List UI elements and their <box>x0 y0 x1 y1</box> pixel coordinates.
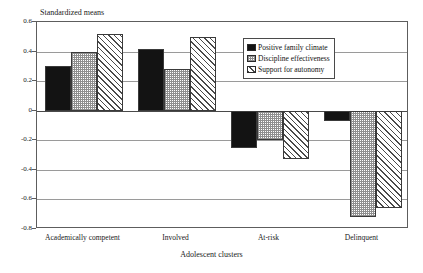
bar <box>283 111 309 160</box>
legend-item: Positive family climate <box>247 42 330 53</box>
y-tick-label: -0.8 <box>21 224 32 232</box>
y-tick-label: -0.2 <box>21 135 32 143</box>
y-tick-mark <box>32 139 36 140</box>
bar <box>350 111 376 217</box>
bar <box>376 111 402 209</box>
x-tick-label: Delinquent <box>345 233 378 242</box>
y-tick-label: 0.6 <box>23 17 32 25</box>
bar-chart-figure: Standardized means 0.60.40.20-0.2-0.4-0.… <box>0 0 423 273</box>
y-tick-mark <box>32 110 36 111</box>
bar <box>138 49 164 111</box>
y-tick-label: 0.2 <box>23 76 32 84</box>
bar <box>257 111 283 141</box>
legend-item-label: Positive family climate <box>258 43 328 52</box>
legend-swatch-icon <box>247 55 256 62</box>
bar <box>231 111 257 148</box>
plot-area <box>36 21 408 228</box>
y-tick-label: -0.6 <box>21 194 32 202</box>
y-tick-mark <box>32 169 36 170</box>
bar <box>71 52 97 111</box>
legend-swatch-icon <box>247 66 256 73</box>
legend-item-label: Discipline effectiveness <box>258 54 330 63</box>
bar <box>97 34 123 111</box>
y-tick-mark <box>32 21 36 22</box>
legend-item-label: Support for autonomy <box>258 65 324 74</box>
legend-item: Support for autonomy <box>247 64 330 75</box>
bar <box>190 37 216 111</box>
y-tick-label: 0.4 <box>23 47 32 55</box>
x-tick-label: At-risk <box>258 233 279 242</box>
y-tick-mark <box>32 51 36 52</box>
y-axis-title: Standardized means <box>40 8 104 17</box>
x-tick-label: Involved <box>162 233 189 242</box>
y-tick-label: -0.4 <box>21 165 32 173</box>
chart-legend: Positive family climateDiscipline effect… <box>243 38 335 79</box>
legend-swatch-icon <box>247 44 256 51</box>
x-axis-title: Adolescent clusters <box>0 250 423 259</box>
x-tick-label: Academically competent <box>45 233 120 242</box>
bar <box>164 69 190 110</box>
y-tick-mark <box>32 198 36 199</box>
y-tick-mark <box>32 80 36 81</box>
bar <box>45 66 71 110</box>
legend-item: Discipline effectiveness <box>247 53 330 64</box>
bar <box>324 111 350 121</box>
y-tick-mark <box>32 228 36 229</box>
